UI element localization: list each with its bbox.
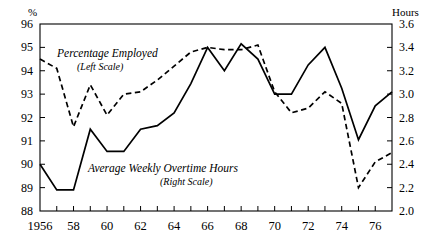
left-axis-unit-label: % xyxy=(28,6,37,18)
x-tick-label: 60 xyxy=(101,219,114,233)
left-tick-label: 92 xyxy=(21,111,33,125)
right-tick-label: 3.0 xyxy=(399,87,414,101)
left-tick-label: 89 xyxy=(21,181,33,195)
left-tick-label: 91 xyxy=(21,134,33,148)
right-tick-label: 2.0 xyxy=(399,204,414,218)
series-sublabel-percentage-employed: (Left Scale) xyxy=(77,61,123,72)
x-tick-label: 70 xyxy=(268,219,281,233)
left-tick-label: 90 xyxy=(21,157,33,171)
right-tick-label: 2.4 xyxy=(399,157,414,171)
x-tick-label: 68 xyxy=(235,219,248,233)
right-tick-label: 2.6 xyxy=(399,134,414,148)
right-tick-label: 2.8 xyxy=(399,111,414,125)
right-axis-tick-labels: 2.02.22.42.62.83.03.23.43.6 xyxy=(399,17,414,218)
right-tick-label: 3.4 xyxy=(399,40,414,54)
left-tick-label: 96 xyxy=(21,17,33,31)
left-tick-label: 93 xyxy=(21,87,33,101)
left-tick-label: 95 xyxy=(21,40,33,54)
left-tick-label: 88 xyxy=(21,204,33,218)
right-tick-label: 2.2 xyxy=(399,181,414,195)
series-label-overtime-hours: Average Weekly Overtime Hours xyxy=(88,162,238,174)
left-axis-tick-labels: 888990919293949596 xyxy=(21,17,33,218)
x-tick-label: 62 xyxy=(134,219,147,233)
right-axis-unit-label: Hours xyxy=(392,6,419,18)
x-tick-label: 72 xyxy=(302,219,315,233)
x-axis-tick-labels: 195658606264666870727476 xyxy=(28,219,382,233)
x-axis-ticks xyxy=(57,206,375,211)
right-tick-label: 3.6 xyxy=(399,17,414,31)
right-axis-ticks xyxy=(387,47,392,187)
series-sublabel-overtime-hours: (Right Scale) xyxy=(160,176,212,187)
x-tick-label: 58 xyxy=(67,219,80,233)
right-tick-label: 3.2 xyxy=(399,64,414,78)
x-tick-label: 64 xyxy=(168,219,181,233)
employment-overtime-chart: 888990919293949596 2.02.22.42.62.83.03.2… xyxy=(0,0,434,245)
chart-canvas: 888990919293949596 2.02.22.42.62.83.03.2… xyxy=(0,0,434,245)
series-label-percentage-employed: Percentage Employed xyxy=(57,47,158,59)
x-tick-label: 76 xyxy=(369,219,382,233)
x-tick-label: 74 xyxy=(335,219,348,233)
left-tick-label: 94 xyxy=(21,64,33,78)
x-tick-label: 1956 xyxy=(28,219,53,233)
x-tick-label: 66 xyxy=(201,219,214,233)
